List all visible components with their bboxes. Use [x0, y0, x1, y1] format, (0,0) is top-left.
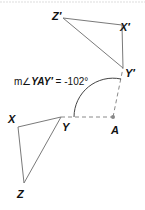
label-Zprime: Z′	[51, 10, 63, 22]
angle-value: -102°	[64, 76, 88, 87]
angle-name: YAY′	[31, 76, 53, 87]
label-Yprime: Y′	[125, 67, 136, 79]
label-Y: Y	[62, 121, 71, 133]
original-triangle	[18, 117, 61, 183]
center-point	[111, 115, 115, 119]
label-Z: Z	[16, 188, 25, 200]
angle-prefix: m∠	[14, 76, 31, 87]
segment-AYprime	[113, 68, 123, 117]
label-Xprime: X′	[119, 21, 131, 33]
rotation-diagram: Z′ X′ Y′ X Y Z A m∠YAY′ = -102°	[0, 0, 145, 210]
label-A: A	[110, 124, 119, 136]
label-X: X	[7, 113, 16, 125]
angle-measure: m∠YAY′ = -102°	[14, 76, 88, 87]
image-triangle	[63, 18, 123, 68]
angle-equals: =	[53, 76, 64, 87]
